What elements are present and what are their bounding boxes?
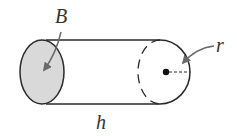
center-point [163,69,169,75]
cylinder-diagram: B r h [0,0,237,136]
cylinder-right-end-hidden [138,40,160,104]
label-height: h [96,111,106,133]
base-ellipse [20,40,64,104]
label-radius: r [216,34,224,56]
label-base: B [55,5,67,27]
